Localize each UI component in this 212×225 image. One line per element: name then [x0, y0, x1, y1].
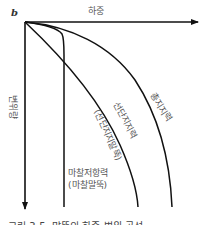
friction-curve — [25, 22, 64, 207]
load-axis-label: 하중 — [88, 6, 104, 16]
friction-sublabel: (마찰말뚝) — [68, 179, 107, 190]
displacement-axis-label: 변위량 — [8, 95, 19, 119]
friction-label: 마찰저항력 — [68, 167, 108, 178]
figure-caption: 그림 3-5. 말뚝의 하중-변위 곡선 — [8, 220, 143, 225]
total-capacity-label: 총지지력 — [148, 90, 174, 123]
origin-label: b — [11, 7, 18, 18]
load-settlement-diagram: b 하중 변위량 총지지력 선단지지력 (선단지지말뚝) 마찰저항력 (마찰말뚝… — [0, 0, 212, 225]
